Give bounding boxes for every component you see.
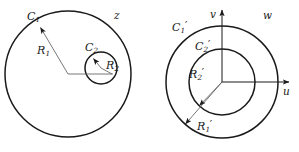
label-R2: R2 [106,60,119,72]
label-R2-prime: R2′ [189,67,204,81]
label-C1: C1 [27,11,40,23]
radius-arrow-R1-prime [186,82,223,124]
label-R1-prime: R1′ [197,119,212,133]
left-panel-group [5,11,131,137]
label-C2: C2 [85,42,98,54]
label-u-axis: u [283,86,290,97]
figure-container: C1 R1 C2 R2 z C1′ C2′ R2′ R1′ v u w [0,0,299,152]
label-C1-prime: C1′ [172,20,187,34]
radius-arrow-R2-head [94,59,102,69]
label-w-plane: w [263,10,272,21]
label-v-axis: v [210,9,216,20]
label-z-plane: z [114,10,120,21]
label-C2-prime: C2′ [195,39,210,53]
label-R1: R1 [37,45,50,57]
figure-vector-graphics [0,0,299,152]
